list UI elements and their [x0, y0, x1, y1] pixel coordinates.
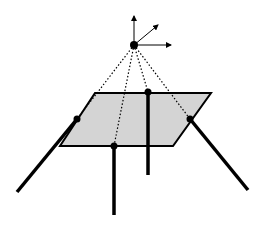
point-top-middle: [145, 89, 152, 96]
coordinate-axes: [134, 16, 171, 45]
point-left: [74, 116, 81, 123]
camera-center-point: [130, 41, 138, 49]
point-right: [187, 116, 194, 123]
point-bottom-middle: [111, 143, 118, 150]
axis-arrow-diagonal: [134, 25, 158, 45]
projection-diagram: [0, 0, 264, 230]
projection-ray: [134, 45, 148, 92]
left-leg: [17, 119, 77, 192]
right-leg: [190, 119, 248, 190]
